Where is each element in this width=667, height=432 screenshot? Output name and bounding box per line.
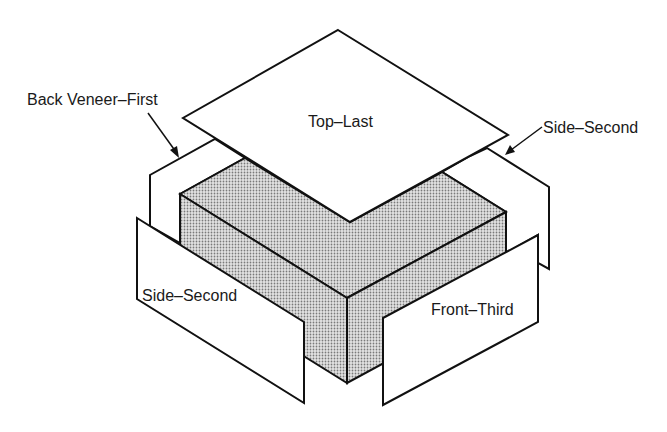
label-side-left: Side–Second — [142, 287, 237, 304]
arrow-side-right-head-icon — [505, 145, 515, 155]
arrow-back-veneer — [148, 113, 179, 158]
arrow-side-right-line — [511, 127, 542, 150]
label-back-veneer: Back Veneer–First — [27, 91, 158, 108]
arrow-back-veneer-line — [148, 113, 176, 152]
label-front: Front–Third — [431, 301, 514, 318]
label-top: Top–Last — [308, 113, 373, 130]
diagram-svg: Back Veneer–First Top–Last Side–Second S… — [0, 0, 667, 432]
arrow-side-right — [505, 127, 542, 155]
arrow-back-veneer-head-icon — [170, 146, 179, 158]
veneer-diagram: Back Veneer–First Top–Last Side–Second S… — [0, 0, 667, 432]
label-side-right: Side–Second — [543, 119, 638, 136]
